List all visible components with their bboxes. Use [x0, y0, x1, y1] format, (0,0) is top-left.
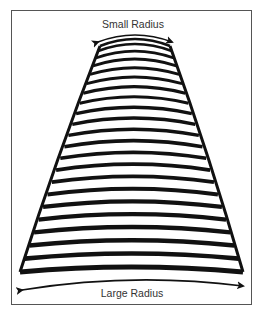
coil-band [34, 227, 230, 232]
coil-band [76, 107, 192, 113]
coil-band [39, 214, 226, 219]
coil-band [20, 267, 243, 272]
large-radius-arrow-icon [22, 280, 243, 290]
coil-band [80, 97, 189, 103]
coil-band [68, 129, 199, 135]
coil-band [96, 51, 174, 58]
coil-band [93, 59, 176, 66]
tapered-coil-diagram [0, 0, 264, 316]
coil-band [90, 68, 179, 75]
coil-band [60, 152, 206, 158]
coil-band [43, 201, 222, 207]
coil-band [56, 164, 210, 170]
coil-band [29, 240, 234, 245]
coil-band [25, 254, 239, 259]
coil-band [72, 118, 195, 124]
cone-left-edge [20, 46, 100, 272]
coil-bands [20, 39, 243, 272]
coil-band [87, 77, 182, 84]
cone-right-edge [170, 46, 243, 272]
coil-band [64, 141, 202, 147]
coil-band [83, 87, 185, 94]
coil-band [47, 189, 217, 195]
coil-band [52, 176, 214, 182]
